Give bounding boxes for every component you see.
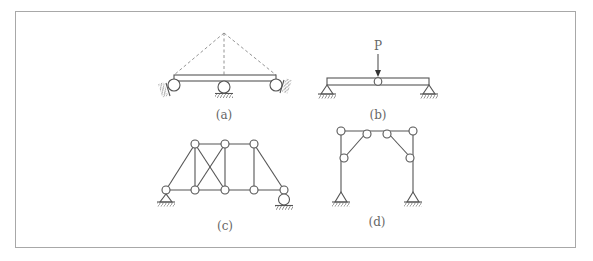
label-c: (c) xyxy=(217,219,233,233)
point-load-arrow xyxy=(375,54,381,77)
load-label: P xyxy=(374,39,382,53)
roller-support-right xyxy=(270,78,292,93)
pin-support-left xyxy=(318,85,336,99)
roller-support-right xyxy=(275,194,293,210)
frame-members xyxy=(341,131,413,193)
roller-support-middle xyxy=(215,81,233,98)
label-a: (a) xyxy=(216,108,233,122)
dashed-outline xyxy=(174,33,276,76)
panel-d: (d) xyxy=(332,127,422,229)
pin-support-right xyxy=(404,192,422,207)
label-b: (b) xyxy=(369,108,386,122)
structures-diagram: (a) P (b) xyxy=(0,0,593,261)
panel-c: (c) xyxy=(157,140,293,233)
pin-support-left xyxy=(157,194,175,207)
pin-support-right xyxy=(420,85,438,99)
panel-a: (a) xyxy=(158,33,292,122)
frame-hinges xyxy=(337,127,417,162)
label-d: (d) xyxy=(368,215,385,229)
pin-support-left xyxy=(332,192,350,207)
truss-members xyxy=(166,144,284,190)
roller-support-left xyxy=(158,79,180,98)
beam xyxy=(174,75,276,81)
panel-b: P (b) xyxy=(318,39,438,122)
hinge xyxy=(374,78,382,86)
